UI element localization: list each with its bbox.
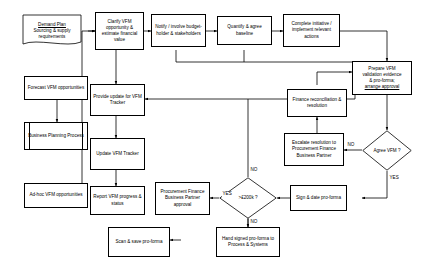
node-escalate-resolution-label: Escalate resolution to Procurement Finan…	[286, 140, 342, 158]
node-escalate-resolution[interactable]: Escalate resolution to Procurement Finan…	[284, 133, 344, 166]
node-prepare-vfm[interactable]: Prepare VFM validation evidence & pro-fo…	[352, 61, 412, 95]
node-finance-reconciliation[interactable]: Finance reconciliation & resolution	[287, 89, 347, 117]
node-report-progress[interactable]: Report VFM progress & status	[90, 186, 145, 215]
node-scan-save-label: Scan & save pro-forma	[110, 239, 168, 245]
node-agree-vfm-decision[interactable]: Agree VFM ?	[362, 130, 412, 171]
node-finance-reconciliation-label: Finance reconciliation & resolution	[289, 97, 345, 109]
node-demand-plan-line3: requirements	[23, 34, 81, 40]
node-notify-involve[interactable]: Notify / involve budget-holder & stakeho…	[151, 14, 206, 47]
node-update-tracker[interactable]: Update VFM Tracker	[90, 138, 145, 170]
node-quantify-agree[interactable]: Quantify & agree baseline	[217, 16, 272, 45]
edge-label-over200k-no-top: NO	[250, 168, 258, 173]
node-complete-initiative-label: Complete initiative / implement relevant…	[285, 21, 338, 39]
node-prepare-vfm-line4: arrange approval	[354, 84, 410, 90]
node-procurement-approval[interactable]: Procurement Finance Business Partner app…	[155, 182, 210, 215]
node-scan-save[interactable]: Scan & save pro-forma	[108, 227, 170, 257]
node-demand-plan[interactable]: Demand Plan Sourcing & supply requiremen…	[22, 14, 82, 48]
node-over-200k-label: >£200k ?	[219, 195, 277, 201]
node-provide-update-label: Provide update for VFM Tracker	[92, 94, 143, 106]
node-procurement-approval-label: Procurement Finance Business Partner app…	[157, 189, 208, 207]
node-ad-hoc-vfm-label: Ad-hoc VFM opportunities	[26, 192, 86, 198]
flowchart-canvas: Demand Plan Sourcing & supply requiremen…	[0, 0, 430, 280]
node-forecast-vfm[interactable]: Forecast VFM opportunities	[24, 76, 88, 100]
node-sign-date[interactable]: Sign & date pro-forma	[290, 185, 347, 211]
node-provide-update[interactable]: Provide update for VFM Tracker	[90, 84, 145, 116]
node-forecast-vfm-label: Forecast VFM opportunities	[26, 85, 86, 91]
node-report-progress-label: Report VFM progress & status	[92, 194, 143, 206]
node-clarify-vfm-label: Clarify VFM opportunity & estimate finan…	[97, 19, 142, 43]
node-business-planning[interactable]: Business Planning Process	[24, 122, 88, 150]
node-over-200k-decision[interactable]: >£200k ?	[219, 177, 277, 219]
node-complete-initiative[interactable]: Complete initiative / implement relevant…	[283, 14, 340, 47]
node-notify-involve-label: Notify / involve budget-holder & stakeho…	[153, 24, 204, 36]
edge-label-agree-vfm-yes: YES	[389, 176, 399, 181]
edge-label-agree-vfm-no: NO	[347, 143, 355, 148]
node-quantify-agree-label: Quantify & agree baseline	[219, 24, 270, 36]
node-sign-date-label: Sign & date pro-forma	[292, 195, 345, 201]
edge-label-over200k-no-bottom: NO	[250, 220, 258, 225]
node-clarify-vfm[interactable]: Clarify VFM opportunity & estimate finan…	[95, 12, 144, 50]
node-business-planning-label: Business Planning Process	[26, 133, 86, 139]
node-update-tracker-label: Update VFM Tracker	[92, 151, 143, 157]
node-ad-hoc-vfm[interactable]: Ad-hoc VFM opportunities	[24, 183, 88, 208]
node-hand-signed[interactable]: Hand signed pro-forma to Process & Syste…	[216, 227, 280, 257]
node-hand-signed-label: Hand signed pro-forma to Process & Syste…	[218, 236, 278, 248]
node-agree-vfm-label: Agree VFM ?	[362, 148, 412, 154]
